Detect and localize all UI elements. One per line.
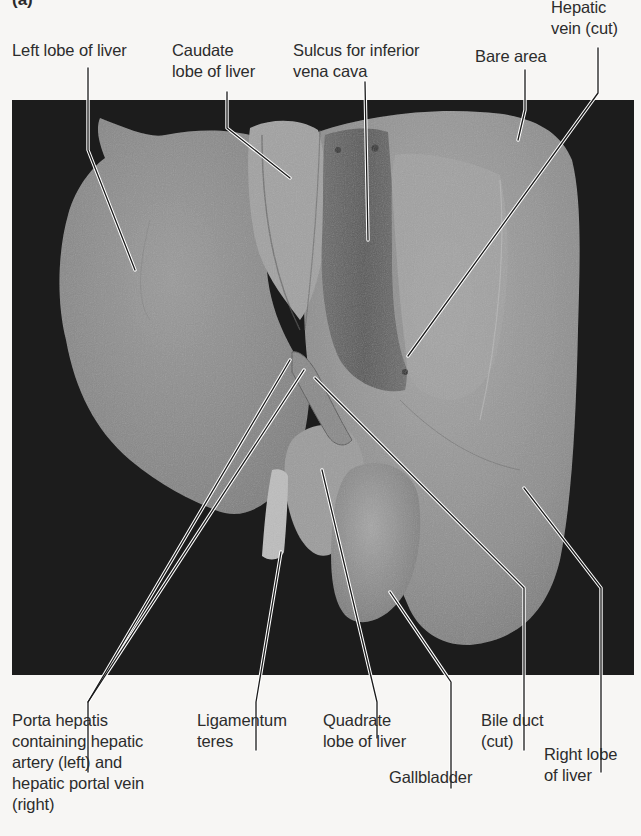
label-right-lobe: Right lobe of liver [544,744,617,786]
label-bile-duct: Bile duct (cut) [481,710,543,752]
label-gallbladder: Gallbladder [389,767,472,788]
label-quadrate-lobe: Quadrate lobe of liver [323,710,406,752]
label-ligamentum-teres: Ligamentum teres [197,710,287,752]
label-porta-hepatis: Porta hepatis containing hepatic artery … [12,710,144,815]
